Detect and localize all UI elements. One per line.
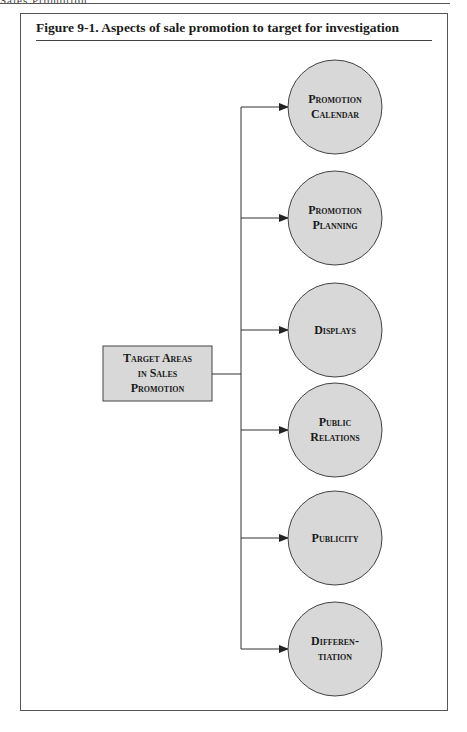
target-label-line1: Public (319, 415, 352, 430)
source-node: Target Areas in Sales Promotion (103, 346, 212, 401)
target-node-displays: Displays (288, 283, 382, 377)
source-node-line2: in Sales (138, 366, 177, 381)
target-label-line1: Displays (314, 323, 356, 338)
target-label-line1: Publicity (312, 531, 359, 546)
target-label-line2: Planning (312, 218, 357, 233)
source-node-line1: Target Areas (123, 351, 192, 366)
target-node-promotion-calendar: Promotion Calendar (288, 60, 382, 154)
target-label-line1: Promotion (308, 203, 362, 218)
target-label-line2: tiation (318, 649, 352, 664)
diagram-connectors (0, 0, 467, 732)
target-node-differentiation: Differen- tiation (288, 602, 382, 696)
target-label-line2: Relations (310, 430, 359, 445)
target-node-public-relations: Public Relations (288, 383, 382, 477)
target-label-line1: Promotion (308, 92, 362, 107)
target-label-line1: Differen- (311, 634, 359, 649)
target-node-promotion-planning: Promotion Planning (288, 171, 382, 265)
target-label-line2: Calendar (311, 107, 359, 122)
target-node-publicity: Publicity (288, 491, 382, 585)
source-node-line3: Promotion (131, 381, 185, 396)
